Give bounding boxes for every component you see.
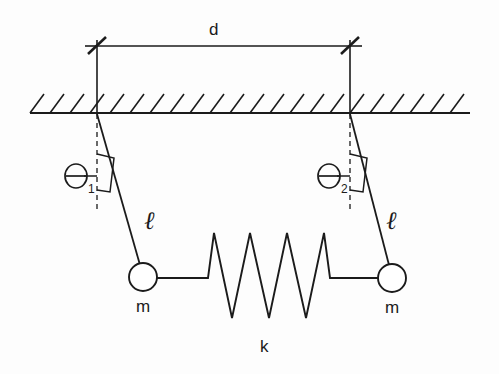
theta-2-subscript: 2 [341, 183, 348, 195]
theta-1-subscript: 1 [88, 183, 95, 195]
left-mass-label-m: m [136, 298, 150, 315]
separation-label-d: d [209, 21, 218, 38]
dimension-group-d [85, 37, 362, 113]
left-pendulum-group [65, 114, 157, 291]
right-length-label-ell: ℓ [386, 208, 396, 233]
theta-2-icon [318, 164, 340, 188]
left-pendulum-string [97, 114, 140, 265]
right-pendulum-group [318, 114, 406, 292]
coupling-spring [157, 233, 378, 318]
right-mass-label-m: m [385, 299, 399, 316]
ceiling-support-group [30, 94, 470, 113]
left-angle-bracket [97, 154, 114, 192]
spring-constant-label-k: k [260, 338, 269, 355]
diagram-vector-layer [0, 0, 499, 374]
coupling-spring-group [157, 233, 378, 318]
right-mass-bob [378, 264, 406, 292]
ceiling-hatching [30, 94, 464, 113]
left-length-label-ell: ℓ [144, 208, 154, 233]
left-mass-bob [129, 263, 157, 291]
right-pendulum-string [350, 114, 389, 265]
theta-1-icon [65, 164, 87, 188]
physics-diagram-canvas: d 1 2 ℓ ℓ m m k [0, 0, 499, 374]
